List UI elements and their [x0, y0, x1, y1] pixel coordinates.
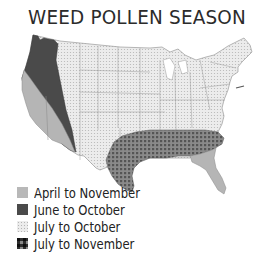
- legend-item-july-november: July to November: [17, 235, 157, 252]
- legend-item-april-november: April to November: [17, 184, 157, 201]
- legend-label: April to November: [34, 185, 140, 201]
- swatch-dotted-light: [17, 221, 28, 232]
- region-april-november-southeast: [190, 148, 226, 194]
- legend-item-june-october: June to October: [17, 201, 157, 218]
- legend-label: June to October: [34, 202, 125, 218]
- legend-label: July to November: [34, 236, 134, 252]
- legend-label: July to October: [34, 219, 120, 235]
- swatch-solid-light: [17, 187, 28, 198]
- long-island: [236, 86, 244, 88]
- swatch-solid-dark: [17, 204, 28, 215]
- legend-item-july-october: July to October: [17, 218, 157, 235]
- map-legend: April to November June to October July t…: [17, 184, 157, 252]
- swatch-checkered: [17, 238, 28, 249]
